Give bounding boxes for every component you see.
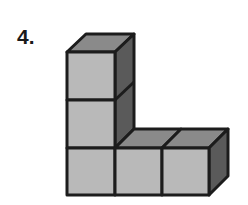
cube-front-face	[67, 52, 115, 100]
cube-figure	[0, 0, 248, 205]
cube-front-face	[67, 100, 115, 148]
cube-front-face	[162, 148, 209, 195]
cube-front-face	[67, 148, 115, 195]
cube-front-face	[115, 148, 162, 195]
l-shaped-cube-structure	[67, 34, 228, 195]
